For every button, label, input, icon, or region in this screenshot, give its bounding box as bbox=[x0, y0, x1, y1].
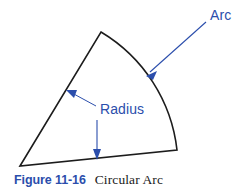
arc-leader-line bbox=[150, 22, 206, 72]
annotation-arc: Arc bbox=[146, 7, 231, 80]
arc-label: Arc bbox=[210, 7, 231, 23]
radius-label: Radius bbox=[100, 101, 144, 117]
radius-side-leader-line bbox=[72, 93, 96, 106]
annotation-radius-bottom bbox=[93, 120, 101, 160]
figure-title: Circular Arc bbox=[95, 172, 163, 187]
arc-arrowhead-icon bbox=[146, 71, 157, 80]
radius-side-arrowhead-icon bbox=[66, 90, 77, 98]
annotation-radius-side bbox=[66, 90, 96, 106]
circular-sector-shape bbox=[20, 32, 177, 166]
figure-number-label: Figure 11-16 bbox=[14, 173, 86, 187]
figure-drawing-canvas: Arc Radius bbox=[0, 0, 251, 192]
figure-circular-arc: Arc Radius Figure 11-16Circular Arc bbox=[0, 0, 251, 192]
figure-caption: Figure 11-16Circular Arc bbox=[14, 170, 163, 189]
